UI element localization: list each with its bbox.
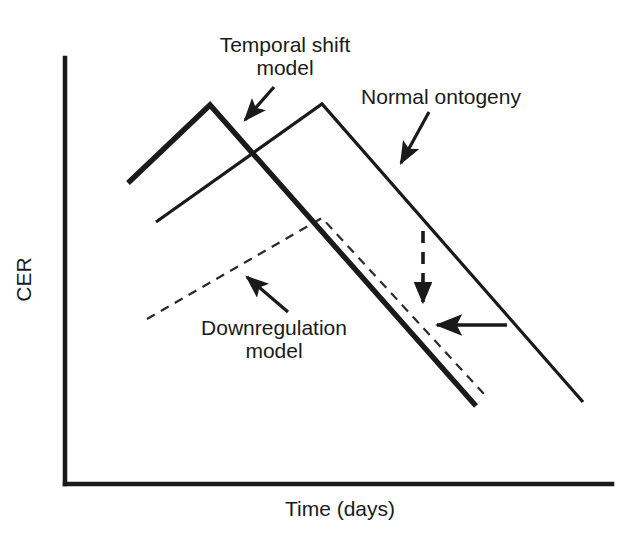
normal-ontogeny-callout-arrow bbox=[401, 112, 429, 163]
downregulation-callout-arrow bbox=[247, 277, 288, 312]
annotation-normal-ontogeny-line-1: Normal ontogeny bbox=[341, 85, 541, 108]
temporal-shift-callout-arrow bbox=[245, 87, 274, 120]
annotation-downregulation-model-line-1: Downregulation bbox=[174, 316, 374, 339]
annotation-temporal-shift-model-line-2: model bbox=[185, 56, 385, 79]
annotation-normal-ontogeny: Normal ontogeny bbox=[341, 85, 541, 108]
figure-root: Temporal shift model Normal ontogeny Dow… bbox=[0, 0, 640, 538]
annotation-temporal-shift-model: Temporal shift model bbox=[185, 33, 385, 79]
curve-downregulation-model bbox=[147, 218, 484, 394]
annotation-downregulation-model: Downregulation model bbox=[174, 316, 374, 362]
figure-canvas bbox=[0, 0, 640, 538]
annotation-downregulation-model-line-2: model bbox=[174, 339, 374, 362]
y-axis-label: CER bbox=[12, 230, 35, 330]
marker-arrow-group bbox=[423, 231, 507, 325]
annotation-temporal-shift-model-line-1: Temporal shift bbox=[185, 33, 385, 56]
x-axis-label: Time (days) bbox=[240, 497, 440, 520]
